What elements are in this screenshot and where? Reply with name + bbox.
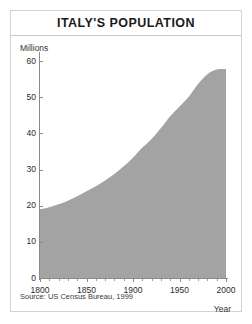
x-tick-mark-major <box>133 279 134 282</box>
chart-body: Millions 0102030405060 18001850190019502… <box>11 36 241 311</box>
source-note: Source: US Census Bureau, 1999 <box>20 292 133 301</box>
plot-area <box>40 54 226 278</box>
x-tick-mark-major <box>87 279 88 282</box>
x-tick-mark-minor <box>77 279 78 281</box>
y-tick-mark <box>40 133 43 134</box>
population-area-path <box>40 69 226 278</box>
x-tick-mark-minor <box>68 279 69 281</box>
x-tick-mark-minor <box>217 279 218 281</box>
x-tick-mark-major <box>40 279 41 282</box>
x-tick-mark-minor <box>96 279 97 281</box>
y-tick-mark <box>40 61 43 62</box>
y-tick-label: 50 <box>12 93 36 102</box>
y-tick-label: 30 <box>12 165 36 174</box>
x-tick-mark-minor <box>189 279 190 281</box>
area-series-svg <box>40 54 226 278</box>
page-title: ITALY'S POPULATION <box>57 16 195 30</box>
y-tick-label: 40 <box>12 129 36 138</box>
y-tick-mark <box>40 242 43 243</box>
x-tick-mark-minor <box>124 279 125 281</box>
x-tick-mark-minor <box>152 279 153 281</box>
x-tick-mark-minor <box>114 279 115 281</box>
x-tick-mark-major <box>226 279 227 282</box>
y-axis-ticks: 0102030405060 <box>11 36 36 296</box>
chart-title-band: ITALY'S POPULATION <box>11 11 241 36</box>
y-tick-label: 60 <box>12 57 36 66</box>
x-tick-label: 2000 <box>217 286 236 295</box>
x-tick-mark-minor <box>198 279 199 281</box>
y-tick-mark <box>40 206 43 207</box>
x-tick-mark-minor <box>161 279 162 281</box>
x-tick-label: 1950 <box>170 286 189 295</box>
x-tick-mark-major <box>180 279 181 282</box>
x-tick-mark-minor <box>49 279 50 281</box>
y-tick-label: 0 <box>12 274 36 283</box>
x-tick-mark-minor <box>59 279 60 281</box>
x-tick-mark-minor <box>105 279 106 281</box>
y-tick-mark <box>40 97 43 98</box>
x-axis-label: Year <box>214 304 231 314</box>
x-tick-mark-minor <box>142 279 143 281</box>
chart-figure: ITALY'S POPULATION Millions 010203040506… <box>10 10 242 312</box>
x-tick-mark-minor <box>170 279 171 281</box>
y-tick-mark <box>40 170 43 171</box>
y-axis-line <box>39 52 40 280</box>
y-tick-label: 20 <box>12 201 36 210</box>
y-tick-label: 10 <box>12 237 36 246</box>
x-tick-mark-minor <box>207 279 208 281</box>
